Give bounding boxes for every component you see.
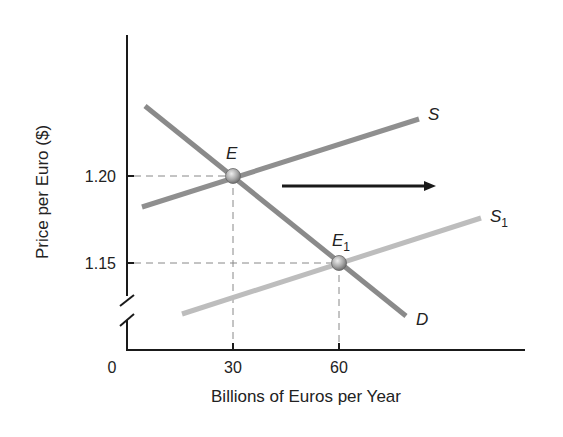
y-axis-title: Price per Euro ($) xyxy=(33,125,52,259)
x-tick-label-30: 30 xyxy=(224,359,242,376)
label-s: S xyxy=(428,105,440,124)
arrow-head-icon xyxy=(424,181,436,191)
x-axis-title: Billions of Euros per Year xyxy=(211,387,401,406)
supply-curve-s xyxy=(142,119,419,207)
x-tick-label-60: 60 xyxy=(330,359,348,376)
y-tick-label-115: 1.15 xyxy=(85,255,116,272)
label-e1: E1 xyxy=(332,231,350,254)
equilibrium-point-e xyxy=(226,169,241,184)
label-e: E xyxy=(226,144,238,163)
equilibrium-point-e1 xyxy=(332,256,347,271)
label-s1: S1 xyxy=(490,207,508,230)
supply-demand-chart: E E1 S S1 D 1.20 1.15 0 30 60 Billions o… xyxy=(0,0,563,437)
x-tick-label-0: 0 xyxy=(108,359,117,376)
y-tick-label-120: 1.20 xyxy=(85,168,116,185)
axis-break-mark xyxy=(120,295,134,306)
label-d: D xyxy=(416,310,428,329)
